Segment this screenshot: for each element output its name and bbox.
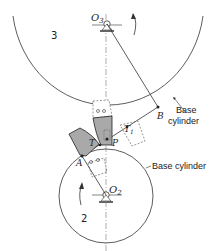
gear3-number: 3 (51, 30, 57, 41)
radius-o2-a (82, 156, 106, 195)
label-base-cylinder-upper-2: cylinder (168, 116, 199, 126)
gear-mesh-diagram: O3 3 B Base cylinder T1 P T A Base cylin… (0, 0, 215, 251)
tooth-outline-gear2 (88, 158, 107, 177)
leader-base-cylinder-lower (146, 166, 151, 168)
label-base-cylinder-lower: Base cylinder (152, 161, 206, 171)
radius-o3-b (107, 24, 158, 107)
label-t1: T1 (124, 124, 134, 135)
label-p: P (111, 138, 119, 148)
label-a: A (75, 158, 83, 168)
point-t (99, 144, 102, 147)
gear2-number: 2 (81, 213, 87, 224)
label-base-cylinder-upper-1: Base (176, 105, 197, 115)
tooth-outline-gear3 (93, 100, 112, 118)
label-t: T (89, 138, 96, 148)
point-p (106, 138, 109, 141)
label-o3: O3 (91, 12, 104, 25)
diagram-canvas: O3 3 B Base cylinder T1 P T A Base cylin… (0, 0, 215, 251)
point-b (157, 106, 160, 109)
label-b: B (156, 111, 164, 121)
